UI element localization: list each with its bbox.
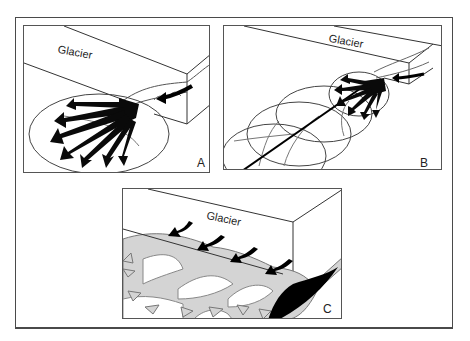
panel-a: Glacier A (23, 25, 210, 173)
panel-c: Glacier C (122, 188, 342, 319)
panel-letter-b: B (420, 156, 428, 170)
panel-b: Glacier B (223, 25, 442, 170)
panel-c-drawing (123, 189, 342, 319)
panel-letter-c: C (323, 302, 332, 316)
panel-a-drawing (24, 26, 210, 173)
panel-b-drawing (224, 26, 442, 170)
panel-letter-a: A (197, 156, 205, 170)
